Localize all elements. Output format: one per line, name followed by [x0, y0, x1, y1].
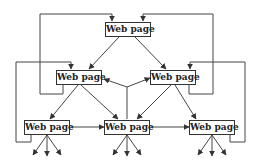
edge-midright-to-bottomright — [175, 85, 196, 119]
node-bottom-center: Web page — [104, 120, 150, 135]
edge-bottomcenter-to-midright — [127, 78, 150, 87]
edge-midleft-to-bottomleft — [50, 85, 78, 119]
node-mid-left: Web page — [56, 70, 102, 85]
node-bottom-right: Web page — [189, 120, 235, 135]
node-mid-right: Web page — [150, 70, 196, 85]
edge-top-to-midleft — [89, 37, 119, 69]
node-bottom-left: Web page — [24, 120, 70, 135]
edge-bottomcenter-to-midleft — [104, 79, 127, 87]
edge-midleft-to-bottomcenter — [81, 85, 118, 119]
edge-top-to-midright — [135, 37, 166, 69]
node-top: Web page — [105, 22, 151, 37]
edge-midright-to-bottomcenter — [137, 85, 171, 119]
